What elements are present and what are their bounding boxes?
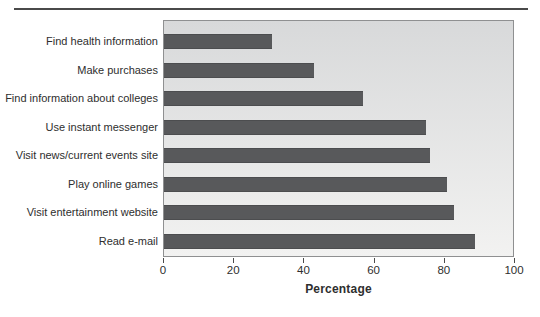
x-axis-tick-label: 0 bbox=[143, 264, 183, 276]
x-axis-tick-label: 80 bbox=[424, 264, 464, 276]
plot-area bbox=[163, 20, 514, 257]
bar bbox=[164, 63, 314, 78]
x-axis-tick-mark bbox=[444, 258, 445, 263]
category-label: Play online games bbox=[4, 177, 158, 192]
x-axis-tick-mark bbox=[514, 258, 515, 263]
bar bbox=[164, 177, 447, 192]
x-axis-tick-mark bbox=[303, 258, 304, 263]
category-label: Visit news/current events site bbox=[4, 148, 158, 163]
category-label: Find information about colleges bbox=[4, 91, 158, 106]
x-axis-title: Percentage bbox=[163, 282, 514, 296]
x-axis-tick-label: 40 bbox=[283, 264, 323, 276]
bar bbox=[164, 234, 475, 249]
bar bbox=[164, 148, 430, 163]
figure-top-rule bbox=[14, 8, 528, 10]
category-label: Find health information bbox=[4, 34, 158, 49]
category-label: Visit entertainment website bbox=[4, 205, 158, 220]
bar bbox=[164, 205, 454, 220]
category-label: Make purchases bbox=[4, 63, 158, 78]
category-label: Use instant messenger bbox=[4, 120, 158, 135]
bar bbox=[164, 91, 363, 106]
x-axis-tick-mark bbox=[374, 258, 375, 263]
x-axis-tick-mark bbox=[233, 258, 234, 263]
x-axis-tick-label: 20 bbox=[213, 264, 253, 276]
x-axis-tick-label: 60 bbox=[354, 264, 394, 276]
bar bbox=[164, 120, 426, 135]
bar-chart-figure: Find health informationMake purchasesFin… bbox=[0, 0, 540, 317]
x-axis-tick-label: 100 bbox=[494, 264, 534, 276]
category-label: Read e-mail bbox=[4, 234, 158, 249]
x-axis-tick-mark bbox=[163, 258, 164, 263]
bar bbox=[164, 34, 272, 49]
